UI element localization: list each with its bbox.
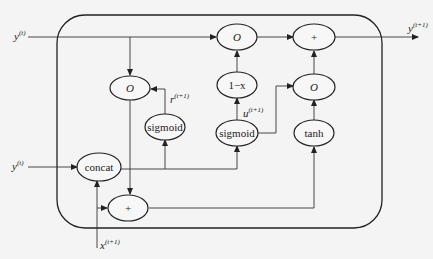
node-mult-right: O bbox=[293, 74, 335, 100]
node-one-minus: 1−x bbox=[217, 72, 257, 98]
node-mult-top: O bbox=[217, 24, 257, 50]
gru-diagram: O O + 1−x O sigmoid sigmoid tanh concat … bbox=[0, 0, 433, 259]
reset-gate-label: r(t+1) bbox=[170, 92, 190, 105]
node-concat: concat bbox=[77, 153, 121, 181]
sigmoid-update-label: sigmoid bbox=[219, 127, 255, 139]
input-y-top-label: y(t) bbox=[13, 29, 26, 42]
update-gate-label: u(t+1) bbox=[243, 106, 264, 119]
one-minus-label: 1−x bbox=[228, 79, 246, 91]
mult-left-label: O bbox=[126, 82, 134, 94]
mult-top-label: O bbox=[233, 31, 241, 43]
sigmoid-reset-label: sigmoid bbox=[147, 121, 183, 133]
add-top-label: + bbox=[311, 31, 317, 43]
concat-label: concat bbox=[85, 161, 114, 173]
cell-frame bbox=[57, 15, 382, 228]
node-sigmoid-reset: sigmoid bbox=[145, 114, 185, 140]
node-sigmoid-update: sigmoid bbox=[216, 120, 258, 146]
mult-right-label: O bbox=[310, 81, 318, 93]
input-x-label: x(t+1) bbox=[99, 238, 120, 251]
node-add-bottom: + bbox=[108, 195, 148, 221]
tanh-label: tanh bbox=[305, 127, 324, 139]
input-y-mid-label: y(t) bbox=[11, 159, 24, 172]
node-tanh: tanh bbox=[294, 120, 334, 146]
output-y-label: y(t+1) bbox=[407, 21, 428, 34]
node-mult-left: O bbox=[110, 76, 150, 100]
node-add-top: + bbox=[293, 24, 335, 50]
add-bottom-label: + bbox=[125, 202, 131, 214]
